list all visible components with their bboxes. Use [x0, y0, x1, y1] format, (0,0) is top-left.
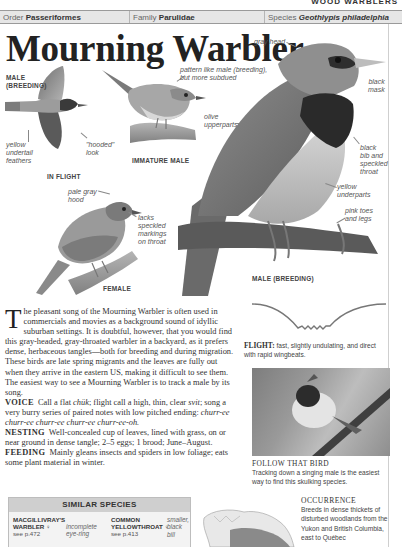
label-lacks-speckled: lacksspeckledmarkingson throat [138, 214, 166, 246]
follow-that-bird-title: FOLLOW THAT BIRD [252, 459, 329, 468]
similar-species-item: COMMONYELLOWTHROAT ♀see p.413 [111, 516, 169, 538]
feeding-label: FEEDING [5, 448, 45, 457]
similar-species-heading: SIMILAR SPECIES [9, 498, 190, 512]
label-black-bib: blackbib andspeckledthroat [360, 144, 388, 176]
follow-that-bird-photo [252, 368, 390, 456]
species-description: The pleasant song of the Mourning Warble… [5, 307, 237, 469]
taxonomy-family: Family Parulidae [130, 11, 265, 23]
similar-page-ref: see p.413 [111, 530, 138, 537]
similar-species-item: MACGILLIVRAY'SWARBLER ♀see p.472 [13, 516, 65, 538]
caption-female: FEMALE [103, 285, 131, 293]
label-line: yellow [337, 183, 356, 190]
caption-in-flight: IN FLIGHT [47, 173, 81, 181]
male-breeding-bird-illustration [178, 36, 390, 296]
follow-that-bird-text: Tracking down a singing male is the easi… [252, 468, 392, 486]
label-line: mask [368, 86, 385, 93]
photo-bird-on-branch-illustration [252, 368, 390, 456]
similar-species-note: smaller,black bill [167, 516, 190, 538]
label-line: underparts [337, 191, 370, 198]
flight-label: FLIGHT: [244, 341, 275, 350]
note-line: incomplete [66, 523, 97, 530]
note-line: eye-ring [66, 530, 89, 537]
taxonomy-order: Order Passeriformes [0, 11, 130, 23]
taxonomy-species: Species Geothlypis philadelphia [265, 11, 402, 23]
similar-name: WARBLER ♀ [13, 523, 51, 530]
label-line: and legs [345, 215, 371, 222]
label-line: pale gray [68, 188, 97, 195]
label-black-mask: blackmask [368, 78, 385, 94]
label-gray-head: gray head [254, 38, 285, 46]
note-line: smaller, [167, 516, 189, 523]
label-line: pink toes [345, 207, 373, 214]
similar-name: MACGILLIVRAY'S [13, 516, 65, 523]
label-line: undertail [6, 149, 33, 156]
similar-name: COMMON [111, 516, 140, 523]
taxonomy-bar: Order Passeriformes Family Parulidae Spe… [0, 10, 402, 24]
nesting-label: NESTING [5, 428, 45, 437]
label-line: black [360, 144, 376, 151]
caption-line: (BREEDING) [6, 82, 47, 89]
section-tag: WOOD WARBLERS [311, 0, 398, 6]
label-yellow-underparts: yellowunderparts [337, 183, 370, 199]
order-value: Passeriformes [26, 13, 81, 22]
label-yellow-undertail: yellowundertailfeathers [6, 141, 33, 165]
occurrence-title: OCCURRENCE [301, 496, 356, 505]
label-line: hood [68, 196, 84, 203]
voice-label: VOICE [5, 398, 34, 407]
label-line: feathers [6, 157, 31, 164]
feeding-paragraph: FEEDING Mainly gleans insects and spider… [5, 448, 237, 468]
family-value: Parulidae [159, 13, 195, 22]
label-line: speckled [138, 222, 166, 229]
label-line: markings [138, 230, 166, 237]
label-line: speckled [360, 160, 388, 167]
label-pink-toes: pink toesand legs [345, 207, 373, 223]
label-line: bib and [360, 152, 383, 159]
species-label: Species [268, 13, 296, 22]
voice-paragraph: VOICE Call a flat chük; flight call a hi… [5, 398, 237, 428]
occurrence-text: Breeds in dense thickets of disturbed wo… [301, 505, 391, 542]
flight-caption: FLIGHT: fast, slightly undulating, and d… [244, 341, 389, 359]
range-map [200, 508, 296, 547]
voice-text: ; flight call a high, thin, clear [89, 398, 188, 407]
voice-text: Call a flat [38, 398, 73, 407]
voice-flight-call: svit [188, 398, 200, 407]
caption-line: MALE [6, 74, 25, 81]
family-label: Family [133, 13, 157, 22]
order-label: Order [3, 13, 23, 22]
species-value: Geothlypis philadelphia [299, 13, 389, 22]
label-line: throat [360, 168, 378, 175]
label-line: yellow [6, 141, 25, 148]
similar-species-box: SIMILAR SPECIES MACGILLIVRAY'SWARBLER ♀s… [8, 497, 191, 547]
similar-page-ref: see p.472 [13, 530, 40, 537]
intro-text: he pleasant song of the Mourning Warbler… [5, 307, 233, 397]
note-line: black bill [167, 523, 182, 537]
label-line: look [86, 149, 99, 156]
intro-paragraph: The pleasant song of the Mourning Warble… [5, 307, 237, 398]
caption-male-breeding-inflight: MALE(BREEDING) [6, 74, 47, 89]
flight-pattern-diagram [250, 298, 390, 338]
voice-call: chük [73, 398, 89, 407]
nesting-paragraph: NESTING Well-concealed cup of leaves, li… [5, 428, 237, 448]
label-pale-gray-hood: pale grayhood [68, 188, 97, 204]
similar-species-note: incompleteeye-ring [66, 523, 97, 538]
similar-name: YELLOWTHROAT ♀ [111, 523, 169, 530]
label-line: lacks [138, 214, 154, 221]
label-line: black [368, 78, 384, 85]
label-line: on throat [138, 238, 166, 245]
drop-cap: T [5, 308, 22, 330]
caption-male-breeding: MALE (BREEDING) [252, 275, 314, 283]
